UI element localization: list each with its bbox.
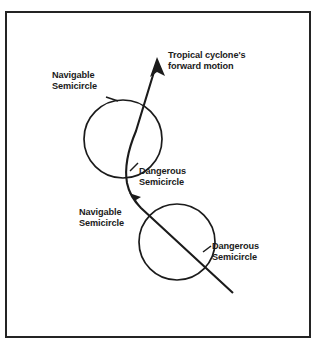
label-navigable-semicircle-upper-line1: Navigable bbox=[52, 70, 95, 80]
label-cyclone-forward-motion: Tropical cyclone'sforward motion bbox=[168, 50, 246, 72]
label-dangerous-semicircle-lower: DangerousSemicircle bbox=[212, 241, 259, 263]
label-dangerous-semicircle-upper-line2: Semicircle bbox=[139, 177, 184, 187]
label-cyclone-forward-motion-line1: Tropical cyclone's bbox=[168, 50, 246, 60]
label-dangerous-semicircle-lower-line1: Dangerous bbox=[212, 241, 259, 251]
label-cyclone-forward-motion-line2: forward motion bbox=[168, 61, 233, 71]
label-navigable-semicircle-lower: NavigableSemicircle bbox=[79, 207, 124, 229]
label-navigable-semicircle-upper-line2: Semicircle bbox=[52, 81, 97, 91]
cyclone-semicircle-figure: Tropical cyclone'sforward motion Navigab… bbox=[0, 0, 318, 348]
label-navigable-semicircle-upper: NavigableSemicircle bbox=[52, 70, 97, 92]
label-dangerous-semicircle-upper-line1: Dangerous bbox=[139, 166, 186, 176]
label-dangerous-semicircle-lower-line2: Semicircle bbox=[212, 252, 257, 262]
label-dangerous-semicircle-upper: DangerousSemicircle bbox=[139, 166, 186, 188]
label-navigable-semicircle-lower-line2: Semicircle bbox=[79, 218, 124, 228]
label-navigable-semicircle-lower-line1: Navigable bbox=[79, 207, 122, 217]
